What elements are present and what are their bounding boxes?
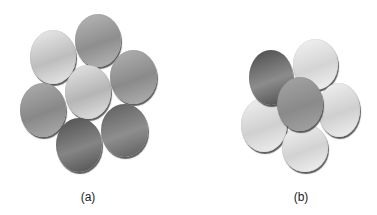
disc-center-mid <box>277 77 323 131</box>
disc-bottom-light <box>282 124 328 172</box>
panel-b-caption: (b) <box>294 190 309 204</box>
disc-center-light <box>65 65 111 119</box>
disc-bottom-dark <box>56 118 102 172</box>
panel-a-caption: (a) <box>81 190 96 204</box>
disc-right-light <box>318 83 360 137</box>
disc-lower-right-dark <box>101 104 148 157</box>
disc-upper-right-mid <box>110 50 157 104</box>
disc-top-mid <box>75 14 121 67</box>
